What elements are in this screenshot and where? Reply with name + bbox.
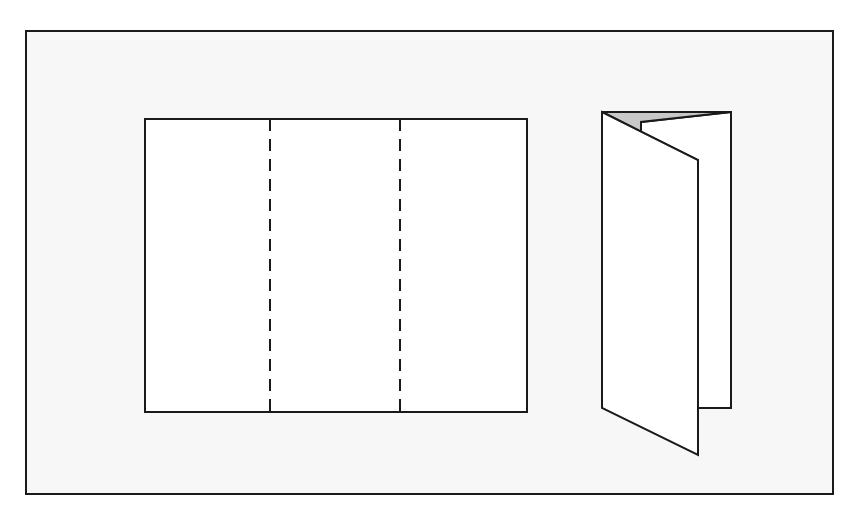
flat-sheet-outline [145,119,527,412]
flat-sheet [145,119,527,412]
folded-brochure [602,112,731,455]
tri-fold-diagram [0,0,855,515]
front-panel [602,112,698,455]
